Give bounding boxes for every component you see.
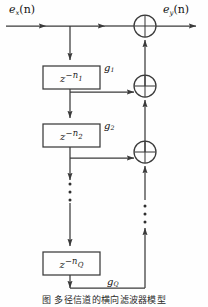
ellipsis-adder-chain bbox=[144, 205, 147, 224]
blk1-exp: −n bbox=[66, 70, 79, 80]
g1-sub: 1 bbox=[110, 66, 114, 73]
tap-gain-label-g1: g1 bbox=[104, 62, 114, 73]
figure-canvas: ex(n) ey(n) g1 g2 gQ z−n1 z−n2 z−nQ 图 多径… bbox=[0, 0, 208, 307]
blkq-exp-sub: Q bbox=[78, 261, 84, 269]
blk2-exp: −n bbox=[66, 128, 79, 138]
blk2-exp-sub: 2 bbox=[78, 133, 83, 141]
input-signal-label: ex(n) bbox=[9, 3, 35, 17]
delay-block-1: z−n1 bbox=[43, 66, 100, 89]
tap-gain-label-g2: g2 bbox=[104, 120, 114, 131]
delay-block-2: z−n2 bbox=[43, 124, 100, 147]
figure-caption: 图 多径信道的横向滤波器模型 bbox=[0, 293, 208, 307]
gq-sub: Q bbox=[113, 280, 118, 287]
g2-sub: 2 bbox=[110, 124, 114, 131]
diagram-vector-layer bbox=[0, 0, 208, 307]
blk1-exp-sub: 1 bbox=[78, 75, 83, 83]
ellipsis-delay-chain bbox=[69, 183, 72, 202]
output-signal-label: ey(n) bbox=[163, 3, 189, 17]
output-label-arg: (n) bbox=[173, 3, 189, 16]
delay-block-q: z−nQ bbox=[43, 252, 100, 275]
input-label-arg: (n) bbox=[19, 3, 35, 16]
tap-gain-label-gq: gQ bbox=[107, 276, 118, 287]
blkq-exp: −n bbox=[65, 256, 78, 266]
